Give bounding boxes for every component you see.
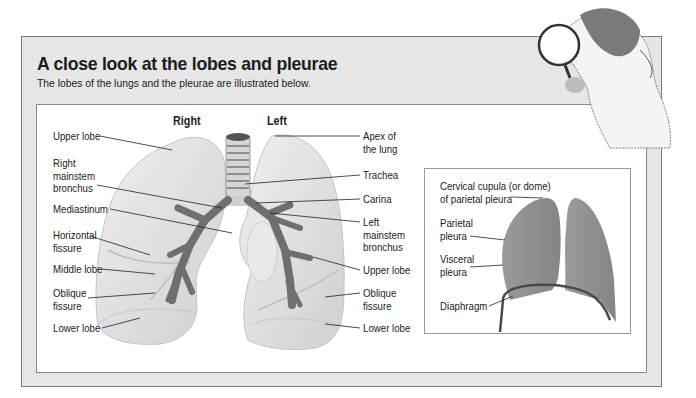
right-side-label: Right xyxy=(173,114,201,128)
label-trachea: Trachea xyxy=(363,169,398,182)
label-lower-lobe-right: Lower lobe xyxy=(53,322,100,335)
label-upper-lobe-left: Upper lobe xyxy=(363,264,410,277)
label-middle-lobe: Middle lobe xyxy=(53,263,103,276)
label-horizontal-fissure: Horizontal fissure xyxy=(53,229,97,254)
label-oblique-fissure-right: Oblique fissure xyxy=(53,287,86,312)
label-cervical-cupula: Cervical cupula (or dome) of parietal pl… xyxy=(440,180,551,205)
right-lung-icon xyxy=(96,137,226,344)
label-carina: Carina xyxy=(363,193,392,206)
label-mediastinum: Mediastinum xyxy=(53,203,108,216)
label-left-mainstem-bronchus: Left mainstem bronchus xyxy=(363,216,405,254)
label-visceral-pleura: Visceral pleura xyxy=(440,253,474,278)
lungs-illustration xyxy=(0,0,696,398)
label-upper-lobe-right: Upper lobe xyxy=(53,130,100,143)
left-lung-icon xyxy=(240,135,344,350)
left-side-label: Left xyxy=(267,114,287,128)
label-apex-of-lung: Apex of the lung xyxy=(363,130,397,155)
label-right-mainstem-bronchus: Right mainstem bronchus xyxy=(53,157,95,195)
label-parietal-pleura: Parietal pleura xyxy=(440,217,473,242)
label-diaphragm: Diaphragm xyxy=(440,300,487,313)
label-lower-lobe-left: Lower lobe xyxy=(363,322,410,335)
label-oblique-fissure-left: Oblique fissure xyxy=(363,287,396,312)
magnifying-glass-person-icon xyxy=(539,8,671,148)
pleura-lungs-icon xyxy=(500,198,616,332)
